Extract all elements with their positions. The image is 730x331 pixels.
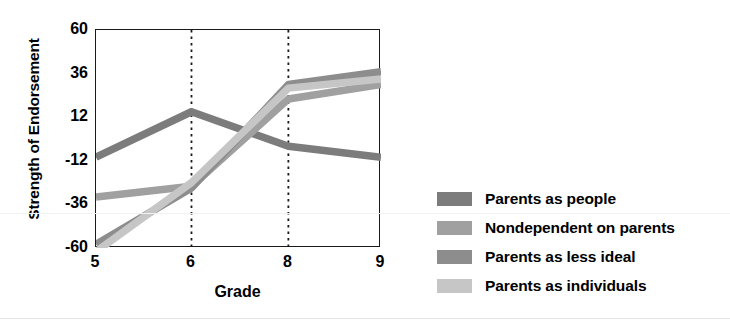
y-axis-tick-labels: 603612-12-36-60 xyxy=(38,0,88,331)
x-axis-tick-label: 8 xyxy=(267,253,307,271)
legend-item[interactable]: Parents as less ideal xyxy=(437,242,727,271)
plot-area xyxy=(95,29,380,247)
plot-lines xyxy=(96,30,381,248)
y-axis-tick-label: -12 xyxy=(42,151,88,169)
legend-item[interactable]: Nondependent on parents xyxy=(437,213,727,242)
series-lines-group xyxy=(96,72,381,248)
y-axis-tick-label: 36 xyxy=(42,64,88,82)
legend-item-label: Parents as people xyxy=(485,190,616,208)
y-axis-tick-label: 60 xyxy=(42,20,88,38)
x-axis-tick-labels: 5689 xyxy=(95,253,380,279)
chart-legend: Parents as peopleNondependent on parents… xyxy=(437,184,727,300)
background-hairline-lower xyxy=(0,318,730,319)
legend-item-label: Nondependent on parents xyxy=(485,219,675,237)
legend-item-label: Parents as individuals xyxy=(485,277,646,295)
legend-color-swatch xyxy=(437,221,472,235)
legend-color-swatch xyxy=(437,192,472,206)
x-axis-tick-label: 9 xyxy=(360,253,400,271)
y-axis-tick-label: 12 xyxy=(42,107,88,125)
legend-item[interactable]: Parents as individuals xyxy=(437,271,727,300)
x-axis-tick-label: 5 xyxy=(75,253,115,271)
line-chart-figure: Strength of Endorsement 603612-12-36-60 … xyxy=(0,0,730,331)
legend-color-swatch xyxy=(437,279,472,293)
legend-color-swatch xyxy=(437,250,472,264)
y-axis-tick-label: -36 xyxy=(42,194,88,212)
x-axis-title: Grade xyxy=(95,283,380,301)
series-line xyxy=(96,79,381,248)
x-axis-tick-label: 6 xyxy=(170,253,210,271)
background-hairline-upper xyxy=(0,213,730,214)
legend-item-label: Parents as less ideal xyxy=(485,248,635,266)
legend-item[interactable]: Parents as people xyxy=(437,184,727,213)
